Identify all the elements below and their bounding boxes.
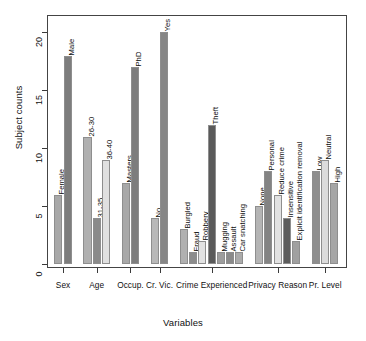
bar xyxy=(122,183,130,264)
bar-value-label: Neutral xyxy=(324,134,333,159)
x-tick-label: Pr. Level xyxy=(309,280,342,290)
bar xyxy=(151,218,159,264)
x-tick-label: Sex xyxy=(56,280,70,290)
bar xyxy=(312,171,320,264)
x-tick-label: Crime Experienced xyxy=(176,280,247,290)
y-tick-label: 20 xyxy=(34,31,44,53)
bar xyxy=(321,160,329,264)
bar xyxy=(330,183,338,264)
bar xyxy=(54,195,62,264)
bar-value-label: Yes xyxy=(163,19,172,32)
x-tick-label: Privacy Reason xyxy=(248,280,307,290)
x-tick-label: Occup. xyxy=(117,280,144,290)
x-tick-mark xyxy=(212,268,213,273)
x-tick-mark xyxy=(97,268,98,273)
bar xyxy=(274,195,282,264)
bar-value-label: Personal xyxy=(267,140,276,170)
bar-value-label: Car snatching xyxy=(238,204,247,252)
bar-value-label: Burgled xyxy=(182,202,191,229)
bar xyxy=(208,125,216,264)
x-tick-mark xyxy=(63,268,64,273)
y-tick-label: 15 xyxy=(34,89,44,111)
bar-value-label: Assault xyxy=(229,227,238,252)
bar xyxy=(160,32,168,264)
x-axis-title: Variables xyxy=(0,317,366,328)
bar xyxy=(217,252,225,264)
x-tick-label: Cr. Vic. xyxy=(146,280,173,290)
bar xyxy=(131,67,139,264)
x-tick-mark xyxy=(325,268,326,273)
y-axis-title: Subject counts xyxy=(13,58,24,178)
bar-value-label: 26-30 xyxy=(86,116,95,136)
bar xyxy=(292,241,300,264)
bar-value-label: Theft xyxy=(210,107,219,125)
bar xyxy=(226,252,234,264)
bar xyxy=(64,56,72,264)
x-tick-mark xyxy=(278,268,279,273)
bar xyxy=(83,137,91,264)
y-tick-label: 10 xyxy=(34,147,44,169)
bar xyxy=(180,229,188,264)
bar xyxy=(198,241,206,264)
bar xyxy=(264,171,272,264)
bar-series: FemaleMale26-3031-3536-40MastersPhDNoYes… xyxy=(47,15,347,268)
bar-value-label: Explicit identification removal xyxy=(295,141,304,240)
bar xyxy=(283,218,291,264)
bar xyxy=(235,252,243,264)
x-tick-label: Age xyxy=(89,280,104,290)
bar-value-label: 36-40 xyxy=(104,140,113,160)
x-tick-mark xyxy=(160,268,161,273)
bar-value-label: Reduce crime xyxy=(276,147,285,194)
bar-value-label: Insensitive xyxy=(285,181,294,217)
bar xyxy=(93,218,101,264)
bar-value-label: PhD xyxy=(134,52,143,67)
bar-value-label: Male xyxy=(66,38,75,55)
bar xyxy=(189,252,197,264)
chart-root: Subject counts Variables 05101520 SexAge… xyxy=(0,0,366,341)
y-tick-label: 0 xyxy=(34,263,44,285)
bar xyxy=(255,206,263,264)
bar-value-label: High xyxy=(333,167,342,183)
y-tick-label: 5 xyxy=(34,205,44,227)
x-tick-mark xyxy=(130,268,131,273)
bar xyxy=(102,160,110,264)
bar-value-label: Mugging xyxy=(219,222,228,251)
